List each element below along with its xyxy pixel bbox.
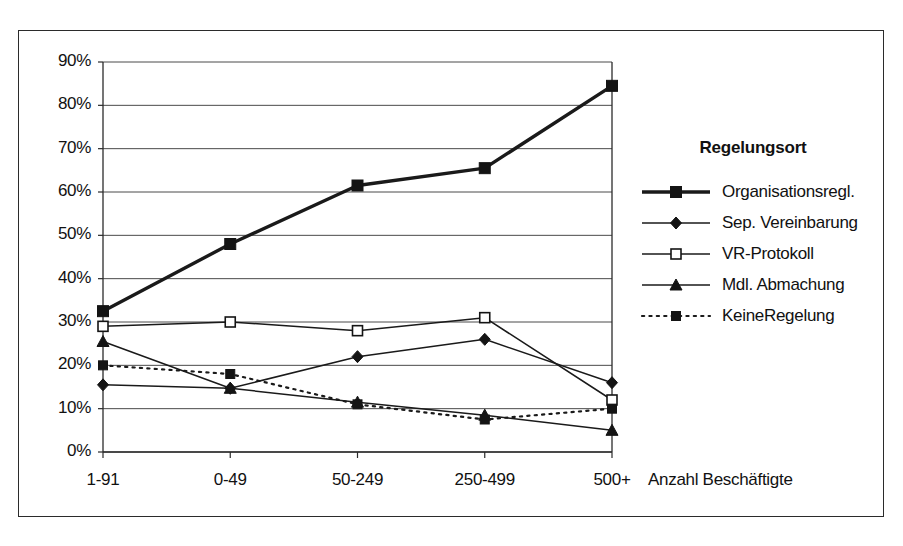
legend-item-2[interactable]: VR-Protokoll xyxy=(640,240,890,268)
x-tick-label: 250-499 xyxy=(425,470,545,490)
legend-marker-filled-triangle-icon xyxy=(640,274,712,296)
y-tick-label: 70% xyxy=(21,138,91,158)
legend-key-svg xyxy=(640,181,712,203)
marker-filled-square xyxy=(352,180,363,191)
x-tick-label: 50-249 xyxy=(298,470,418,490)
marker-open-square xyxy=(671,249,681,259)
marker-filled-square xyxy=(225,239,236,250)
marker-open-square xyxy=(353,326,363,336)
legend-label-0: Organisationsregl. xyxy=(712,182,855,202)
marker-filled-square-small xyxy=(608,404,617,413)
y-tick-label: 20% xyxy=(21,354,91,374)
legend-marker-filled-diamond-icon xyxy=(640,212,712,234)
marker-filled-diamond xyxy=(98,379,109,391)
legend-label-2: VR-Protokoll xyxy=(712,244,814,264)
legend-marker-filled-square-icon xyxy=(640,181,712,203)
series-1 xyxy=(98,333,618,394)
marker-filled-square-small xyxy=(226,370,235,379)
legend-key-svg xyxy=(640,212,712,234)
x-axis-title: Anzahl Beschäftigte xyxy=(648,470,793,490)
chart-root: 0%10%20%30%40%50%60%70%80%90% 1-910-4950… xyxy=(0,0,903,546)
y-tick-label: 0% xyxy=(21,441,91,461)
legend-item-3[interactable]: Mdl. Abmachung xyxy=(640,271,890,299)
marker-filled-square xyxy=(479,163,490,174)
series-line xyxy=(103,339,612,388)
marker-open-square xyxy=(480,313,490,323)
legend-item-1[interactable]: Sep. Vereinbarung xyxy=(640,209,890,237)
marker-filled-diamond xyxy=(479,333,490,345)
legend-item-4[interactable]: KeineRegelung xyxy=(640,302,890,330)
y-tick-label: 30% xyxy=(21,311,91,331)
series-line xyxy=(103,86,612,311)
series-0 xyxy=(98,80,618,316)
y-tick-label: 10% xyxy=(21,398,91,418)
series-line xyxy=(103,365,612,419)
marker-filled-triangle xyxy=(97,336,109,347)
marker-filled-square-small xyxy=(353,400,362,409)
x-tick-label: 0-49 xyxy=(170,470,290,490)
x-tick-label: 1-91 xyxy=(43,470,163,490)
marker-filled-diamond xyxy=(671,217,682,229)
legend-key-svg xyxy=(640,274,712,296)
legend-label-3: Mdl. Abmachung xyxy=(712,275,844,295)
series-4 xyxy=(99,361,617,424)
y-tick-label: 80% xyxy=(21,94,91,114)
marker-filled-square-small xyxy=(672,312,681,321)
marker-filled-diamond xyxy=(352,351,363,363)
y-tick-label: 90% xyxy=(21,51,91,71)
y-tick-label: 40% xyxy=(21,268,91,288)
legend-marker-open-square-icon xyxy=(640,243,712,265)
y-tick-label: 60% xyxy=(21,181,91,201)
legend-title: Regelungsort xyxy=(640,138,866,158)
legend-label-4: KeineRegelung xyxy=(712,306,834,326)
legend-key-svg xyxy=(640,305,712,327)
y-tick-label: 50% xyxy=(21,224,91,244)
legend-key-svg xyxy=(640,243,712,265)
legend-marker-filled-square-small-icon xyxy=(640,305,712,327)
marker-filled-square-small xyxy=(480,415,489,424)
marker-open-square xyxy=(225,317,235,327)
marker-filled-square xyxy=(607,80,618,91)
legend: Regelungsort Organisationsregl.Sep. Vere… xyxy=(640,138,890,333)
legend-entries: Organisationsregl.Sep. VereinbarungVR-Pr… xyxy=(640,178,890,330)
marker-open-square xyxy=(98,321,108,331)
marker-filled-diamond xyxy=(607,377,618,389)
marker-filled-square-small xyxy=(99,361,108,370)
marker-filled-square xyxy=(671,187,682,198)
marker-filled-square xyxy=(98,306,109,317)
legend-label-1: Sep. Vereinbarung xyxy=(712,213,858,233)
legend-item-0[interactable]: Organisationsregl. xyxy=(640,178,890,206)
marker-open-square xyxy=(607,395,617,405)
